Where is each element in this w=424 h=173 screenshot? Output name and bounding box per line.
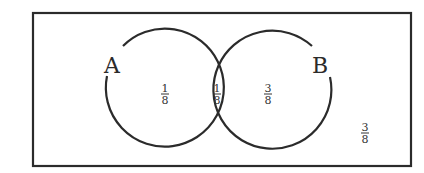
fraction-denominator: 8 [214, 94, 221, 107]
venn-diagram: A B 1 8 1 8 3 8 3 8 [0, 0, 424, 173]
set-a-label: A [103, 53, 121, 78]
fraction-denominator: 8 [265, 94, 272, 107]
set-b-label: B [312, 53, 328, 78]
fraction-denominator: 8 [362, 133, 369, 146]
region-a-only-fraction: 1 8 [161, 82, 169, 107]
fraction-denominator: 8 [162, 94, 169, 107]
set-b-circle [213, 31, 331, 149]
region-b-only-fraction: 3 8 [264, 82, 272, 107]
region-neither-fraction: 3 8 [361, 121, 369, 146]
universe-rectangle [33, 13, 411, 166]
region-a-and-b-fraction: 1 8 [213, 82, 221, 107]
